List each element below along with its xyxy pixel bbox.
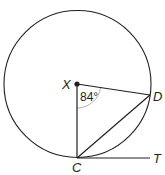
label-t: T <box>153 151 162 166</box>
angle-label: 84° <box>80 90 98 104</box>
center-point <box>74 81 79 86</box>
label-c: C <box>72 160 82 175</box>
label-d: D <box>153 89 162 104</box>
geometry-diagram: X 84° D C T <box>0 0 165 175</box>
label-x: X <box>61 77 72 92</box>
